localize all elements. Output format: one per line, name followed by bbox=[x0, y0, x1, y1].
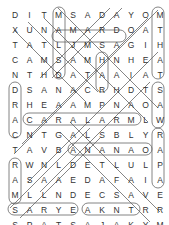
grid-letter[interactable]: S bbox=[153, 83, 167, 97]
grid-letter[interactable]: S bbox=[66, 8, 80, 22]
grid-letter[interactable]: M bbox=[124, 113, 138, 127]
grid-letter[interactable]: A bbox=[52, 98, 66, 112]
grid-letter[interactable]: A bbox=[124, 143, 138, 157]
grid-letter[interactable]: L bbox=[81, 128, 95, 142]
grid-letter[interactable]: I bbox=[124, 68, 138, 82]
grid-letter[interactable]: H bbox=[110, 83, 124, 97]
grid-letter[interactable]: R bbox=[110, 113, 124, 127]
grid-letter[interactable]: E bbox=[139, 53, 153, 67]
grid-letter[interactable]: C bbox=[23, 113, 37, 127]
grid-letter[interactable]: A bbox=[153, 53, 167, 67]
grid-letter[interactable]: D bbox=[52, 68, 66, 82]
grid-letter[interactable]: M bbox=[81, 98, 95, 112]
grid-letter[interactable]: R bbox=[8, 98, 22, 112]
grid-letter[interactable]: E bbox=[81, 188, 95, 202]
grid-letter[interactable]: H bbox=[23, 98, 37, 112]
grid-letter[interactable]: A bbox=[153, 173, 167, 187]
grid-letter[interactable]: C bbox=[81, 83, 95, 97]
grid-letter[interactable]: A bbox=[95, 143, 109, 157]
grid-letter[interactable]: A bbox=[23, 38, 37, 52]
grid-letter[interactable]: A bbox=[52, 23, 66, 37]
grid-letter[interactable]: J bbox=[95, 218, 109, 225]
grid-letter[interactable]: A bbox=[110, 68, 124, 82]
grid-letter[interactable]: N bbox=[8, 68, 22, 82]
grid-letter[interactable]: V bbox=[139, 188, 153, 202]
grid-letter[interactable]: M bbox=[66, 23, 80, 37]
grid-letter[interactable]: A bbox=[37, 173, 51, 187]
grid-letter[interactable]: D bbox=[81, 173, 95, 187]
grid-letter[interactable]: O bbox=[139, 143, 153, 157]
grid-letter[interactable]: A bbox=[37, 113, 51, 127]
grid-letter[interactable]: L bbox=[23, 188, 37, 202]
grid-letter[interactable]: R bbox=[52, 113, 66, 127]
grid-letter[interactable]: A bbox=[110, 38, 124, 52]
grid-letter[interactable]: N bbox=[110, 143, 124, 157]
grid-letter[interactable]: L bbox=[52, 158, 66, 172]
grid-letter[interactable]: K bbox=[95, 203, 109, 217]
grid-letter[interactable]: S bbox=[95, 38, 109, 52]
grid-letter[interactable]: A bbox=[66, 128, 80, 142]
grid-letter[interactable]: L bbox=[110, 158, 124, 172]
grid-letter[interactable]: T bbox=[81, 68, 95, 82]
grid-letter[interactable]: M bbox=[8, 188, 22, 202]
grid-letter[interactable]: D bbox=[66, 188, 80, 202]
grid-letter[interactable]: D bbox=[8, 83, 22, 97]
grid-letter[interactable]: N bbox=[110, 53, 124, 67]
grid-letter[interactable]: A bbox=[81, 203, 95, 217]
grid-letter[interactable]: T bbox=[95, 158, 109, 172]
grid-letter[interactable]: H bbox=[95, 53, 109, 67]
grid-letter[interactable]: M bbox=[153, 8, 167, 22]
grid-letter[interactable]: X bbox=[8, 23, 22, 37]
grid-letter[interactable]: A bbox=[110, 8, 124, 22]
grid-letter[interactable]: D bbox=[124, 83, 138, 97]
grid-letter[interactable]: M bbox=[37, 53, 51, 67]
grid-letter[interactable]: A bbox=[37, 83, 51, 97]
grid-letter[interactable]: P bbox=[23, 218, 37, 225]
grid-letter[interactable]: H bbox=[153, 38, 167, 52]
grid-letter[interactable]: P bbox=[153, 158, 167, 172]
grid-letter[interactable]: S bbox=[8, 218, 22, 225]
grid-letter[interactable]: A bbox=[153, 143, 167, 157]
grid-letter[interactable]: C bbox=[95, 188, 109, 202]
grid-letter[interactable]: T bbox=[37, 8, 51, 22]
grid-letter[interactable]: N bbox=[52, 83, 66, 97]
grid-letter[interactable]: I bbox=[139, 173, 153, 187]
grid-letter[interactable]: A bbox=[66, 83, 80, 97]
grid-letter[interactable]: A bbox=[66, 98, 80, 112]
grid-letter[interactable]: Y bbox=[139, 218, 153, 225]
grid-letter[interactable]: R bbox=[95, 23, 109, 37]
grid-letter[interactable]: T bbox=[153, 23, 167, 37]
grid-letter[interactable]: T bbox=[8, 38, 22, 52]
grid-letter[interactable]: G bbox=[124, 38, 138, 52]
grid-letter[interactable]: D bbox=[95, 8, 109, 22]
grid-letter[interactable]: A bbox=[124, 188, 138, 202]
grid-letter[interactable]: A bbox=[37, 218, 51, 225]
grid-letter[interactable]: T bbox=[8, 143, 22, 157]
grid-letter[interactable]: A bbox=[95, 173, 109, 187]
grid-letter[interactable]: T bbox=[153, 68, 167, 82]
grid-letter[interactable]: B bbox=[110, 128, 124, 142]
grid-letter[interactable]: T bbox=[124, 203, 138, 217]
grid-letter[interactable]: A bbox=[23, 143, 37, 157]
grid-letter[interactable]: P bbox=[95, 98, 109, 112]
grid-letter[interactable]: R bbox=[8, 158, 22, 172]
grid-letter[interactable]: S bbox=[95, 128, 109, 142]
grid-letter[interactable]: A bbox=[8, 173, 22, 187]
grid-letter[interactable]: A bbox=[110, 218, 124, 225]
grid-letter[interactable]: A bbox=[81, 218, 95, 225]
grid-letter[interactable]: Y bbox=[139, 128, 153, 142]
grid-letter[interactable]: I bbox=[139, 38, 153, 52]
grid-letter[interactable]: L bbox=[52, 38, 66, 52]
grid-letter[interactable]: T bbox=[37, 38, 51, 52]
grid-letter[interactable]: N bbox=[52, 188, 66, 202]
grid-letter[interactable]: E bbox=[66, 173, 80, 187]
grid-letter[interactable]: E bbox=[81, 158, 95, 172]
grid-letter[interactable]: A bbox=[139, 68, 153, 82]
grid-letter[interactable]: A bbox=[23, 53, 37, 67]
grid-letter[interactable]: A bbox=[66, 113, 80, 127]
grid-letter[interactable]: A bbox=[66, 68, 80, 82]
grid-letter[interactable]: N bbox=[37, 23, 51, 37]
grid-letter[interactable]: R bbox=[139, 203, 153, 217]
grid-letter[interactable]: S bbox=[66, 218, 80, 225]
grid-letter[interactable]: V bbox=[37, 143, 51, 157]
